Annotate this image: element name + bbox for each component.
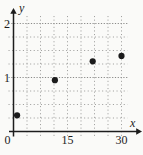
data-point	[118, 53, 124, 59]
x-axis-arrow-icon	[136, 128, 142, 134]
scatter-plot-svg: 0153012 y x	[0, 0, 143, 155]
y-axis-arrow-icon	[10, 8, 16, 14]
tick-labels: 0153012	[4, 17, 128, 147]
data-point	[52, 77, 58, 83]
data-point	[14, 112, 20, 118]
x-tick-label: 30	[116, 133, 128, 147]
y-tick-label: 2	[4, 17, 10, 31]
y-tick-label: 1	[4, 71, 10, 85]
y-axis-label: y	[18, 1, 25, 15]
x-axis-label: x	[129, 116, 136, 130]
data-point	[90, 58, 96, 64]
x-tick-label: 15	[62, 133, 74, 147]
x-tick-label: 0	[5, 133, 11, 147]
scatter-figure: 0153012 y x	[0, 0, 143, 155]
data-points	[14, 53, 125, 119]
grid	[9, 16, 128, 137]
